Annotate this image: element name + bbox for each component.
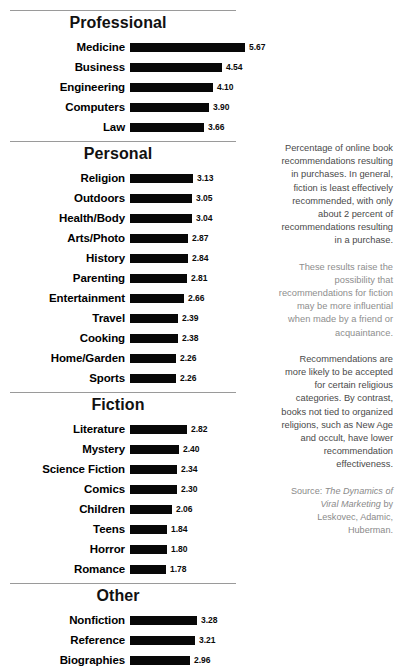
bar-value-label: 2.39 [182, 313, 199, 323]
bar-category-label: Engineering [0, 81, 130, 93]
bar-category-label: Mystery [0, 443, 130, 455]
bar-track: 2.30 [130, 484, 272, 494]
bar-track: 2.87 [130, 233, 272, 243]
bar-category-label: Horror [0, 543, 130, 555]
bar-row: Cooking 2.38 [0, 328, 272, 348]
bar-fill [130, 636, 195, 645]
bar-fill [130, 334, 178, 343]
bar-category-label: Children [0, 503, 130, 515]
bar-category-label: Outdoors [0, 192, 130, 204]
chart-section-professional: Professional Medicine 5.67 Business 4.54 [0, 6, 272, 137]
caption-column: Percentage of online book recommendation… [277, 142, 393, 550]
bar-fill [130, 616, 197, 625]
bar-fill [130, 294, 184, 303]
bar-fill [130, 214, 192, 223]
bar-track: 2.96 [130, 655, 272, 665]
bar-row: Teens 1.84 [0, 519, 272, 539]
bar-value-label: 1.80 [171, 544, 188, 554]
section-title: Fiction [0, 393, 236, 419]
bar-value-label: 2.26 [180, 373, 197, 383]
bar-fill [130, 545, 167, 554]
source-prefix: Source: [291, 486, 325, 496]
bar-row: Nonfiction 3.28 [0, 610, 272, 630]
caption-paragraph-1: Percentage of online book recommendation… [277, 142, 393, 248]
bar-category-label: Religion [0, 172, 130, 184]
bar-fill [130, 103, 209, 112]
bar-row: Entertainment 2.66 [0, 288, 272, 308]
bar-row: Outdoors 3.05 [0, 188, 272, 208]
chart-section-fiction: Fiction Literature 2.82 Mystery 2.40 [0, 388, 272, 579]
bar-value-label: 3.66 [208, 122, 225, 132]
bar-fill [130, 314, 178, 323]
section-title: Personal [0, 142, 236, 168]
bar-track: 2.81 [130, 273, 272, 283]
bar-category-label: Medicine [0, 41, 130, 53]
bar-track: 2.26 [130, 373, 272, 383]
bar-row: Romance 1.78 [0, 559, 272, 579]
bar-fill [130, 194, 192, 203]
bar-fill [130, 123, 204, 132]
bar-value-label: 2.84 [192, 253, 209, 263]
bar-chart-column: Professional Medicine 5.67 Business 4.54 [0, 0, 272, 670]
bar-row: Reference 3.21 [0, 630, 272, 650]
bar-row: Business 4.54 [0, 57, 272, 77]
bar-row: Medicine 5.67 [0, 37, 272, 57]
bar-value-label: 3.21 [199, 635, 216, 645]
caption-source: Source: The Dynamics of Viral Marketing … [277, 485, 393, 537]
bar-row: Health/Body 3.04 [0, 208, 272, 228]
bar-fill [130, 525, 167, 534]
bar-fill [130, 465, 177, 474]
bar-row: Law 3.66 [0, 117, 272, 137]
bar-row: Comics 2.30 [0, 479, 272, 499]
chart-section-personal: Personal Religion 3.13 Outdoors 3.05 [0, 137, 272, 388]
bar-value-label: 3.90 [213, 102, 230, 112]
bar-track: 2.66 [130, 293, 272, 303]
bar-track: 3.04 [130, 213, 272, 223]
bar-row: Arts/Photo 2.87 [0, 228, 272, 248]
bar-track: 2.82 [130, 424, 272, 434]
bar-value-label: 2.82 [191, 424, 208, 434]
caption-paragraph-2: These results raise the possibility that… [277, 261, 393, 340]
bar-track: 2.40 [130, 444, 272, 454]
bar-track: 3.90 [130, 102, 272, 112]
bar-row: Mystery 2.40 [0, 439, 272, 459]
bar-row: Sports 2.26 [0, 368, 272, 388]
bar-rows: Religion 3.13 Outdoors 3.05 Health/Body [0, 168, 272, 388]
bar-value-label: 4.54 [226, 62, 243, 72]
bar-fill [130, 445, 179, 454]
bar-fill [130, 234, 188, 243]
bar-track: 3.28 [130, 615, 272, 625]
bar-category-label: Travel [0, 312, 130, 324]
bar-fill [130, 485, 177, 494]
bar-category-label: Sports [0, 372, 130, 384]
bar-value-label: 1.78 [170, 564, 187, 574]
bar-track: 2.39 [130, 313, 272, 323]
bar-category-label: Teens [0, 523, 130, 535]
bar-row: Children 2.06 [0, 499, 272, 519]
bar-category-label: Computers [0, 101, 130, 113]
section-title: Other [0, 584, 236, 610]
bar-value-label: 2.96 [194, 655, 211, 665]
bar-value-label: 1.84 [171, 524, 188, 534]
bar-fill [130, 274, 187, 283]
bar-track: 2.38 [130, 333, 272, 343]
bar-track: 1.78 [130, 564, 272, 574]
bar-rows: Literature 2.82 Mystery 2.40 Science Fic… [0, 419, 272, 579]
bar-value-label: 2.81 [191, 273, 208, 283]
bar-fill [130, 254, 188, 263]
bar-category-label: Literature [0, 423, 130, 435]
bar-category-label: Arts/Photo [0, 232, 130, 244]
bar-value-label: 2.06 [176, 504, 193, 514]
bar-rows: Medicine 5.67 Business 4.54 Engineering [0, 37, 272, 137]
bar-value-label: 2.26 [180, 353, 197, 363]
bar-track: 4.54 [130, 62, 272, 72]
bar-value-label: 2.66 [188, 293, 205, 303]
bar-row: Parenting 2.81 [0, 268, 272, 288]
bar-row: Religion 3.13 [0, 168, 272, 188]
bar-category-label: Health/Body [0, 212, 130, 224]
bar-fill [130, 63, 222, 72]
bar-value-label: 5.67 [249, 42, 266, 52]
chart-section-other: Other Nonfiction 3.28 Reference 3.21 [0, 579, 272, 670]
bar-row: Engineering 4.10 [0, 77, 272, 97]
bar-track: 5.67 [130, 42, 272, 52]
